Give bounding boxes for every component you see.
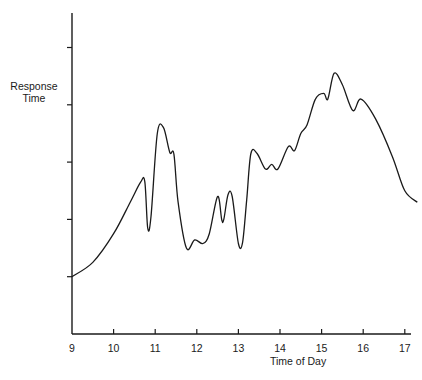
x-tick-label: 17 (399, 342, 411, 354)
x-tick-label: 12 (191, 342, 203, 354)
x-tick-label: 13 (233, 342, 245, 354)
y-axis-label-line2: Time (8, 92, 60, 104)
x-axis-label: Time of Day (270, 355, 326, 367)
x-tick-labels: 91011121314151617 (69, 342, 411, 354)
line-chart: 91011121314151617 (0, 0, 422, 380)
response-time-line (72, 73, 417, 277)
axis-ticks (67, 48, 405, 335)
y-axis-label-line1: Response (8, 80, 60, 92)
x-tick-label: 11 (150, 342, 161, 354)
x-tick-label: 15 (316, 342, 328, 354)
x-tick-label: 16 (357, 342, 369, 354)
x-tick-label: 14 (274, 342, 286, 354)
x-tick-label: 10 (108, 342, 120, 354)
y-axis-label: Response Time (8, 80, 60, 104)
axes (72, 13, 411, 334)
x-tick-label: 9 (69, 342, 75, 354)
